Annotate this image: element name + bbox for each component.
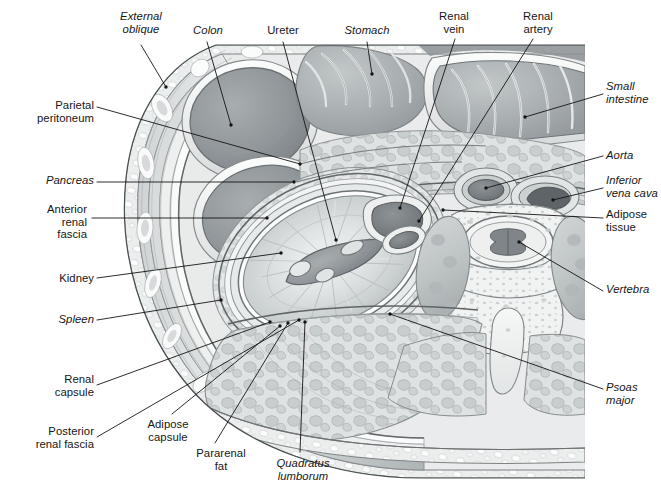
leader-inferior-vena-cava xyxy=(553,188,603,200)
leader-renal-artery xyxy=(419,39,533,221)
label-small-intestine: Small intestine xyxy=(606,80,661,105)
leader-dot-stomach xyxy=(370,72,373,75)
leader-small-intestine xyxy=(525,94,603,117)
label-parietal-peritoneum: Parietal peritoneum xyxy=(8,99,94,124)
leader-dot-aorta xyxy=(484,186,487,189)
leader-dot-kidney xyxy=(279,251,282,254)
leader-kidney xyxy=(97,253,281,278)
leader-dot-quadratus-lumborum xyxy=(303,320,306,323)
leader-dot-psoas-major xyxy=(388,312,391,315)
leader-dot-parietal-peritoneum xyxy=(298,162,301,165)
label-colon: Colon xyxy=(184,24,232,37)
leader-quadratus-lumborum xyxy=(300,322,305,452)
leader-lines xyxy=(0,0,661,493)
leader-dot-adipose-capsule xyxy=(278,324,281,327)
leader-dot-inferior-vena-cava xyxy=(551,198,554,201)
label-external-oblique: External oblique xyxy=(108,10,174,35)
label-pararenal-fat: Pararenal fat xyxy=(188,447,254,472)
label-kidney: Kidney xyxy=(8,272,94,285)
leader-dot-colon xyxy=(229,123,232,126)
leader-dot-vertebra xyxy=(517,240,520,243)
label-renal-capsule: Renal capsule xyxy=(8,373,94,398)
label-pancreas: Pancreas xyxy=(8,174,94,187)
leader-psoas-major xyxy=(390,314,603,389)
label-adipose-tissue: Adipose tissue xyxy=(606,208,661,233)
leader-dot-external-oblique xyxy=(164,85,167,88)
label-aorta: Aorta xyxy=(606,149,656,162)
leader-colon xyxy=(207,42,231,125)
label-spleen: Spleen xyxy=(8,313,94,326)
leader-dot-pancreas xyxy=(292,180,295,183)
label-stomach: Stomach xyxy=(336,24,398,37)
leader-stomach xyxy=(367,42,372,74)
label-posterior-renal-fascia: Posterior renal fascia xyxy=(3,425,94,450)
label-psoas-major: Psoas major xyxy=(606,381,658,406)
leader-external-oblique xyxy=(141,45,166,87)
leader-renal-vein xyxy=(400,39,455,208)
label-ureter: Ureter xyxy=(258,24,308,37)
leader-adipose-tissue xyxy=(443,210,603,218)
leader-dot-renal-capsule xyxy=(268,320,271,323)
label-renal-vein: Renal vein xyxy=(430,10,478,35)
label-renal-artery: Renal artery xyxy=(512,10,564,35)
label-inferior-vena-cava: Inferior vena cava xyxy=(606,174,661,199)
leader-ureter xyxy=(283,42,336,240)
leader-vertebra xyxy=(519,242,603,291)
leader-renal-capsule xyxy=(97,322,270,385)
leader-aorta xyxy=(486,156,603,188)
label-anterior-renal-fascia: Anterior renal fascia xyxy=(3,203,87,241)
leader-spleen xyxy=(97,300,221,320)
leader-dot-small-intestine xyxy=(523,115,526,118)
leader-dot-spleen xyxy=(219,298,222,301)
label-vertebra: Vertebra xyxy=(606,283,661,296)
leader-dot-renal-vein xyxy=(398,206,401,209)
leader-pararenal-fat xyxy=(215,323,288,443)
label-quadratus-lumborum: Quadratus lumborum xyxy=(263,457,343,482)
leader-dot-posterior-renal-fascia xyxy=(297,318,300,321)
illustration-canvas: External obliqueColonUreterStomachRenal … xyxy=(0,0,661,493)
leader-dot-anterior-renal-fascia xyxy=(265,216,268,219)
leader-dot-renal-artery xyxy=(417,219,420,222)
label-adipose-capsule: Adipose capsule xyxy=(137,418,199,443)
leader-dot-pararenal-fat xyxy=(286,321,289,324)
leader-adipose-capsule xyxy=(172,326,280,414)
leader-parietal-peritoneum xyxy=(97,107,300,164)
leader-dot-adipose-tissue xyxy=(441,208,444,211)
leader-dot-ureter xyxy=(334,238,337,241)
